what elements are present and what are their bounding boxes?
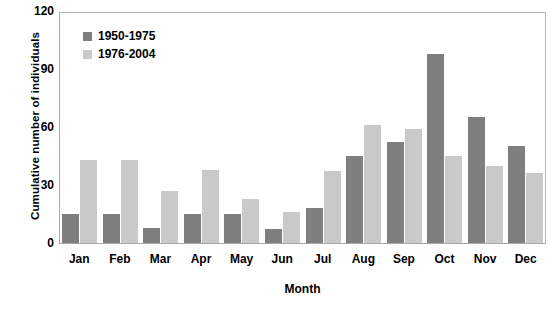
bar-group bbox=[344, 13, 385, 243]
bar-group bbox=[506, 13, 547, 243]
bar-apr-1976-2004 bbox=[202, 170, 219, 243]
legend-label: 1976-2004 bbox=[98, 47, 155, 61]
y-tick-label: 120 bbox=[20, 5, 54, 17]
bar-group bbox=[222, 13, 263, 243]
bar-feb-1950-1975 bbox=[103, 214, 120, 243]
y-tick-label: 0 bbox=[20, 237, 54, 249]
bar-jun-1950-1975 bbox=[265, 229, 282, 243]
y-tick-label: 30 bbox=[20, 179, 54, 191]
bar-group bbox=[425, 13, 466, 243]
legend-item: 1950-1975 bbox=[83, 27, 155, 45]
bar-oct-1950-1975 bbox=[427, 54, 444, 243]
chart-legend: 1950-19751976-2004 bbox=[83, 27, 155, 63]
x-axis-title: Month bbox=[59, 282, 546, 296]
bar-dec-1950-1975 bbox=[508, 146, 525, 243]
bar-group bbox=[385, 13, 426, 243]
y-tick-label: 60 bbox=[20, 121, 54, 133]
bar-jan-1976-2004 bbox=[80, 160, 97, 243]
bar-oct-1976-2004 bbox=[445, 156, 462, 243]
bar-group bbox=[182, 13, 223, 243]
bar-aug-1976-2004 bbox=[364, 125, 381, 243]
bar-mar-1950-1975 bbox=[143, 228, 160, 243]
bar-group bbox=[466, 13, 507, 243]
bar-chart: Cumulative number of individuals 0306090… bbox=[0, 0, 557, 311]
bar-dec-1976-2004 bbox=[526, 173, 543, 243]
bar-apr-1950-1975 bbox=[184, 214, 201, 243]
bar-feb-1976-2004 bbox=[121, 160, 138, 243]
y-tick-label: 90 bbox=[20, 63, 54, 75]
bar-group bbox=[304, 13, 345, 243]
legend-swatch-icon bbox=[83, 50, 92, 59]
bar-may-1976-2004 bbox=[242, 199, 259, 243]
bar-mar-1976-2004 bbox=[161, 191, 178, 243]
bar-nov-1976-2004 bbox=[486, 166, 503, 243]
x-tick-label-dec: Dec bbox=[496, 252, 556, 266]
legend-swatch-icon bbox=[83, 32, 92, 41]
bar-aug-1950-1975 bbox=[346, 156, 363, 243]
bar-jul-1976-2004 bbox=[324, 171, 341, 243]
bar-jun-1976-2004 bbox=[283, 212, 300, 243]
bar-group bbox=[263, 13, 304, 243]
bar-may-1950-1975 bbox=[224, 214, 241, 243]
legend-item: 1976-2004 bbox=[83, 45, 155, 63]
bar-jul-1950-1975 bbox=[306, 208, 323, 243]
bar-jan-1950-1975 bbox=[62, 214, 79, 243]
y-axis-ticks: 0306090120 bbox=[14, 0, 54, 311]
bar-sep-1976-2004 bbox=[405, 129, 422, 243]
bar-sep-1950-1975 bbox=[387, 142, 404, 243]
legend-label: 1950-1975 bbox=[98, 29, 155, 43]
bar-nov-1950-1975 bbox=[468, 117, 485, 243]
